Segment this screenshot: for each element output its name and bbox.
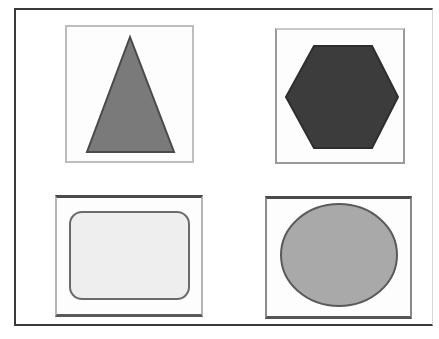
rounded-rectangle-panel — [55, 195, 203, 317]
rounded-rectangle-icon — [57, 198, 201, 314]
ellipse-panel — [265, 196, 412, 319]
hexagon-icon — [277, 30, 403, 162]
triangle-icon — [67, 27, 192, 161]
ellipse-icon — [267, 199, 410, 316]
hexagon-panel — [275, 28, 405, 164]
triangle-panel — [65, 25, 194, 163]
